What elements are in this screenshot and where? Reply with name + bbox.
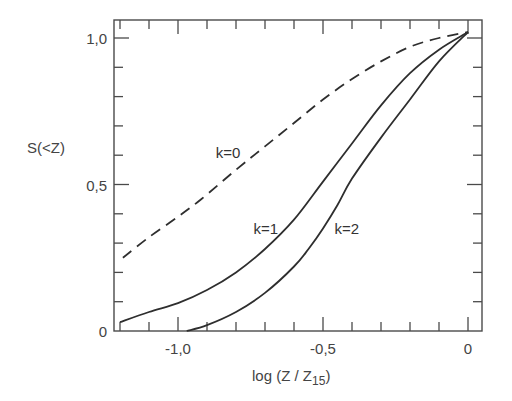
- tick-labels: -1,0-0,5000,51,0: [86, 30, 472, 357]
- series-label-k1: k=1: [253, 220, 278, 237]
- y-axis-label: S(<Z): [27, 139, 65, 156]
- y-tick-label: 0,5: [86, 177, 107, 194]
- series-line-k0: [123, 32, 468, 258]
- plot-frame: [114, 20, 482, 331]
- x-axis-label-close: ): [325, 367, 330, 384]
- series-line-k2: [187, 32, 468, 331]
- y-tick-label: 1,0: [86, 30, 107, 47]
- series-label-k0: k=0: [216, 144, 241, 161]
- x-axis-label-subscript: 15: [312, 374, 326, 388]
- x-tick-label: -0,5: [310, 340, 336, 357]
- series-line-k1: [120, 32, 468, 322]
- series-label-k2: k=2: [335, 220, 360, 237]
- x-tick-label: -1,0: [165, 340, 191, 357]
- axis-ticks: [114, 20, 482, 331]
- x-axis-label-main: log (Z / Z: [252, 367, 312, 384]
- data-series: k=0k=1k=2: [120, 32, 468, 331]
- chart: k=0k=1k=2 -1,0-0,5000,51,0 S(<Z) log (Z …: [0, 0, 512, 401]
- x-tick-label: 0: [464, 340, 472, 357]
- x-axis-label: log (Z / Z15): [252, 367, 330, 388]
- y-tick-label: 0: [99, 323, 107, 340]
